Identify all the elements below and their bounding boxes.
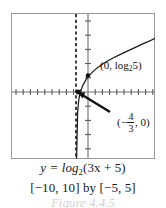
plot-area: (0, log25) (−43, 0) xyxy=(11,13,155,159)
annotation-x-intercept-close: , 0) xyxy=(135,116,150,128)
fraction-denominator: 3 xyxy=(127,124,134,134)
annotation-y-intercept-suffix: 5) xyxy=(132,59,141,71)
annotation-y-intercept: (0, log25) xyxy=(100,60,142,73)
annotation-x-intercept-open: (− xyxy=(117,116,127,128)
graph-svg xyxy=(11,13,155,159)
fraction-numerator: 4 xyxy=(127,112,134,122)
figure-number-label: Figure 4.4.5 xyxy=(0,196,166,208)
annotation-y-intercept-prefix: (0, log xyxy=(100,59,129,71)
caption-window: [−10, 10] by [−5, 5] xyxy=(0,180,166,195)
figure-caption-block: y = log2(3x + 5) [−10, 10] by [−5, 5] xyxy=(0,160,166,195)
annotation-x-intercept: (−43, 0) xyxy=(117,112,150,134)
caption-equation: y = log2(3x + 5) xyxy=(0,160,166,180)
caption-equation-suffix: (3x + 5) xyxy=(83,160,126,175)
point-y-intercept xyxy=(86,73,91,78)
figure-container: (0, log25) (−43, 0) y = log2(3x + 5) [−1… xyxy=(0,0,166,208)
caption-equation-prefix: y = log xyxy=(40,160,78,175)
annotation-x-intercept-fraction: 43 xyxy=(127,112,134,134)
